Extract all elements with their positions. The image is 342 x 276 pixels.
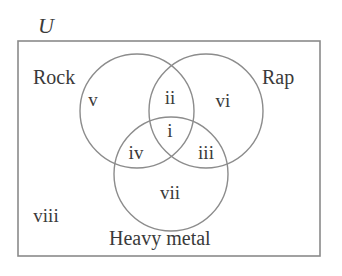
- rock-set-label: Rock: [33, 66, 75, 88]
- region-vii-label: vii: [160, 182, 180, 203]
- region-iii-label: iii: [198, 142, 214, 163]
- region-iv-label: iv: [129, 142, 144, 163]
- venn-diagram: U Rock Rap Heavy metal i ii iii iv v vi …: [0, 0, 342, 276]
- region-i-label: i: [167, 120, 172, 141]
- region-ii-label: ii: [165, 87, 176, 108]
- region-vi-label: vi: [216, 90, 231, 111]
- universe-label: U: [38, 13, 56, 38]
- heavy-metal-set-label: Heavy metal: [109, 227, 211, 250]
- region-viii-label: viii: [33, 205, 58, 226]
- region-v-label: v: [88, 89, 98, 110]
- rap-set-label: Rap: [262, 66, 294, 89]
